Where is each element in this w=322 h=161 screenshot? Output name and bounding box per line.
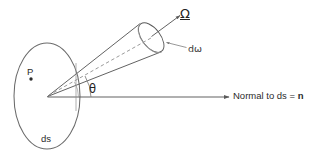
point-p-marker — [29, 77, 32, 80]
theta-angle-label: θ — [89, 84, 96, 96]
normal-to-ds-prefix: Normal to ds = — [233, 90, 298, 101]
solid-angle-diagram: Ω dω θ P ds Normal to ds = n — [0, 0, 322, 161]
point-p-label: P — [27, 67, 33, 77]
surface-element-label: ds — [41, 134, 51, 144]
normal-vector-symbol: n — [298, 90, 304, 101]
omega-arrow — [152, 16, 181, 37]
normal-to-ds-label: Normal to ds = n — [233, 91, 304, 101]
differential-solid-angle-label: dω — [188, 44, 202, 54]
domega-leader-line — [167, 43, 187, 48]
cone-axis-dashed — [49, 38, 152, 96]
cone-edge-lower — [48, 52, 163, 97]
solid-angle-omega-label: Ω — [180, 7, 190, 20]
